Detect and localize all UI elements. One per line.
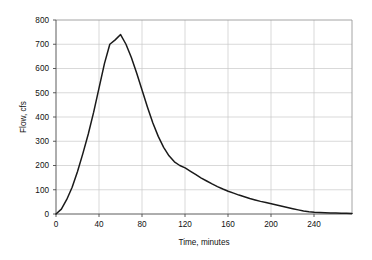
- x-tick-label: 240: [307, 220, 321, 229]
- y-tick-label: 500: [35, 89, 49, 98]
- x-tick-label: 160: [221, 220, 235, 229]
- y-tick-label: 700: [35, 40, 49, 49]
- y-tick-label: 200: [35, 161, 49, 170]
- x-tick-label: 200: [264, 220, 278, 229]
- y-tick-label: 400: [35, 113, 49, 122]
- x-tick-label: 0: [54, 220, 59, 229]
- y-tick-label: 800: [35, 16, 49, 25]
- x-axis-title: Time, minutes: [178, 238, 229, 247]
- y-tick-label: 0: [44, 210, 49, 219]
- y-tick-label: 600: [35, 64, 49, 73]
- y-tick-label: 100: [35, 186, 49, 195]
- x-tick-label: 40: [94, 220, 104, 229]
- y-tick-label: 300: [35, 137, 49, 146]
- hydrograph-chart: 800 700 600 500 400 300 200 100 0 0 40 8…: [0, 0, 372, 260]
- chart-svg: 800 700 600 500 400 300 200 100 0 0 40 8…: [0, 0, 372, 260]
- x-tick-label: 80: [137, 220, 147, 229]
- y-axis-title: Flow, cfs: [19, 101, 28, 133]
- x-tick-label: 120: [178, 220, 192, 229]
- y-tick-labels: 800 700 600 500 400 300 200 100 0: [35, 16, 49, 219]
